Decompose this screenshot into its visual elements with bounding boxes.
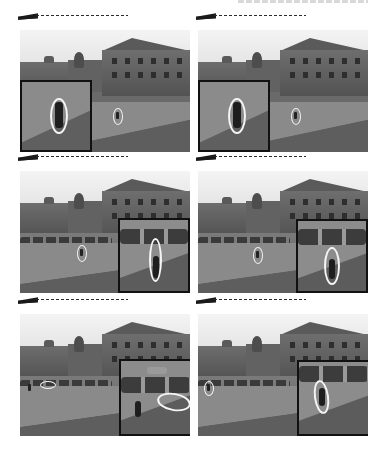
panel-row1-col1 (18, 14, 190, 152)
panel-row2-col2 (196, 155, 368, 293)
trajectory-marker (196, 298, 308, 304)
parked-cars (298, 229, 366, 244)
zoomed-inset (296, 219, 368, 293)
zoomed-inset (20, 80, 92, 152)
tracking-ellipse (204, 381, 214, 396)
tracking-ellipse (149, 238, 162, 282)
zoomed-inset (119, 359, 190, 436)
tracking-ellipse (291, 108, 301, 125)
parked-cars (299, 366, 368, 382)
scene-frame (198, 314, 368, 436)
trajectory-marker (196, 155, 308, 161)
tracking-ellipse (50, 98, 68, 134)
zoomed-inset (118, 218, 190, 293)
tracking-ellipse (113, 108, 123, 125)
scene-frame (20, 314, 190, 436)
scene-frame (20, 30, 190, 152)
tracking-ellipse (253, 247, 263, 264)
zoomed-inset (198, 80, 270, 152)
tracking-ellipse (40, 381, 56, 389)
zoomed-inset (297, 360, 368, 436)
panel-row1-col2 (196, 14, 368, 152)
trajectory-marker (196, 14, 308, 20)
panel-row2-col1 (18, 155, 190, 293)
scene-frame (198, 171, 368, 293)
tracking-ellipse (324, 247, 340, 285)
trajectory-marker (18, 155, 130, 161)
trajectory-marker (18, 298, 130, 304)
panel-row3-col2 (196, 298, 368, 436)
panel-row3-col1 (18, 298, 190, 436)
header-text-fragment (238, 0, 368, 3)
scene-frame (20, 171, 190, 293)
pedestrian-figure (28, 384, 31, 391)
scene-frame (198, 30, 368, 152)
tracking-ellipse (228, 98, 246, 134)
pedestrian-figure (135, 401, 141, 417)
parked-cars (121, 377, 190, 393)
tracking-ellipse (77, 245, 87, 262)
trajectory-marker (18, 14, 130, 20)
